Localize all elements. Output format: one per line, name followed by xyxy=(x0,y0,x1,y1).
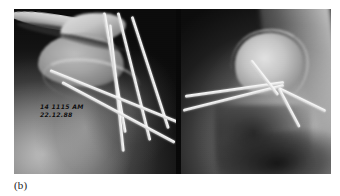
figure-root: 14 1115 AM 22.12.88 (b) xyxy=(0,0,340,196)
xray-panel-ap-shoulder: 14 1115 AM 22.12.88 xyxy=(14,9,176,174)
xray-panel-axillary-lateral xyxy=(181,9,331,174)
film-grain-right xyxy=(181,9,331,174)
radiograph-plate: 14 1115 AM 22.12.88 xyxy=(14,9,331,174)
film-grain-left xyxy=(14,9,176,174)
figure-caption: (b) xyxy=(14,179,27,191)
